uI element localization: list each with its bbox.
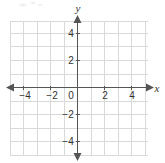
x-axis-right-arrowhead xyxy=(146,84,154,92)
y-tick-label-pos4: 4 xyxy=(68,28,74,39)
y-tick-label-pos2: 2 xyxy=(68,55,74,66)
x-tick-label-pos4: 4 xyxy=(129,90,135,101)
origin-label: 0 xyxy=(68,90,74,101)
x-tick-label-pos2: 2 xyxy=(102,90,108,101)
x-tick-label-neg4: −4 xyxy=(19,90,31,101)
y-tick-label-neg4: −4 xyxy=(62,136,74,147)
coordinate-plane-figure: y x 0 −4 −2 2 4 4 2 −2 −4 xyxy=(0,0,165,163)
x-tick-label-neg2: −2 xyxy=(46,90,58,101)
y-axis-bottom-arrowhead xyxy=(74,153,82,161)
x-axis-label: x xyxy=(154,82,160,94)
y-axis-label: y xyxy=(75,2,81,14)
y-tick-label-neg2: −2 xyxy=(62,109,74,120)
y-axis-top-arrowhead xyxy=(74,15,82,23)
coordinate-plane-svg: y x 0 −4 −2 2 4 4 2 −2 −4 xyxy=(0,0,165,163)
